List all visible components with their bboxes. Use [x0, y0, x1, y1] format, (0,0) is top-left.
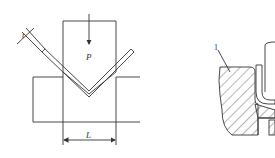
spring-element [269, 120, 275, 135]
part-number-label: 1 [214, 43, 218, 52]
sheet-wall [256, 65, 275, 104]
force-label: P [85, 52, 92, 62]
die-cross-section [218, 42, 275, 135]
v-bend-schematic [17, 14, 140, 145]
lower-insert [255, 104, 275, 118]
span-label: L [85, 130, 91, 140]
upper-punch-outline [265, 42, 275, 92]
diagram-canvas: P L t 1 [0, 0, 275, 158]
hatched-die-body [219, 67, 258, 135]
die-block [33, 77, 140, 122]
